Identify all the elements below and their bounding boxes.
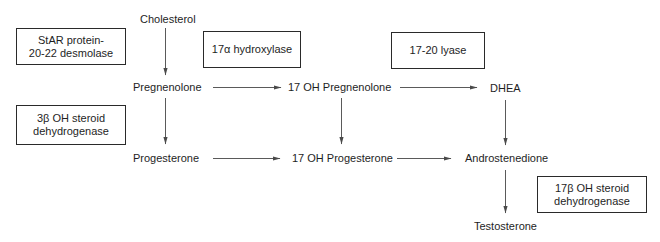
enzyme-17a-hydroxylase-label: 17α hydroxylase xyxy=(212,43,292,56)
enzyme-3b-hsd-line2: dehydrogenase xyxy=(33,125,109,138)
enzyme-17b-hsd-line1: 17β OH steroid xyxy=(555,182,629,195)
enzyme-3b-hsd-line1: 3β OH steroid xyxy=(37,112,105,125)
enzyme-star-line2: 20-22 desmolase xyxy=(29,47,113,60)
enzyme-17-20-lyase-label: 17-20 lyase xyxy=(410,44,467,57)
compound-androstenedione: Androstenedione xyxy=(465,152,548,165)
enzyme-3b-hsd: 3β OH steroid dehydrogenase xyxy=(16,105,126,145)
compound-17oh-progesterone: 17 OH Progesterone xyxy=(292,152,393,165)
enzyme-star-desmolase: StAR protein- 20-22 desmolase xyxy=(16,28,126,65)
compound-progesterone: Progesterone xyxy=(133,152,199,165)
enzyme-star-line1: StAR protein- xyxy=(38,34,104,47)
enzyme-17-20-lyase: 17-20 lyase xyxy=(391,32,485,69)
compound-cholesterol: Cholesterol xyxy=(140,13,196,26)
enzyme-17a-hydroxylase: 17α hydroxylase xyxy=(203,31,301,68)
compound-pregnenolone: Pregnenolone xyxy=(133,81,202,94)
compound-dhea: DHEA xyxy=(490,82,521,95)
enzyme-17b-hsd-line2: dehydrogenase xyxy=(554,195,630,208)
compound-testosterone: Testosterone xyxy=(474,220,537,233)
compound-17oh-pregnenolone: 17 OH Pregnenolone xyxy=(288,81,391,94)
enzyme-17b-hsd: 17β OH steroid dehydrogenase xyxy=(537,176,647,213)
